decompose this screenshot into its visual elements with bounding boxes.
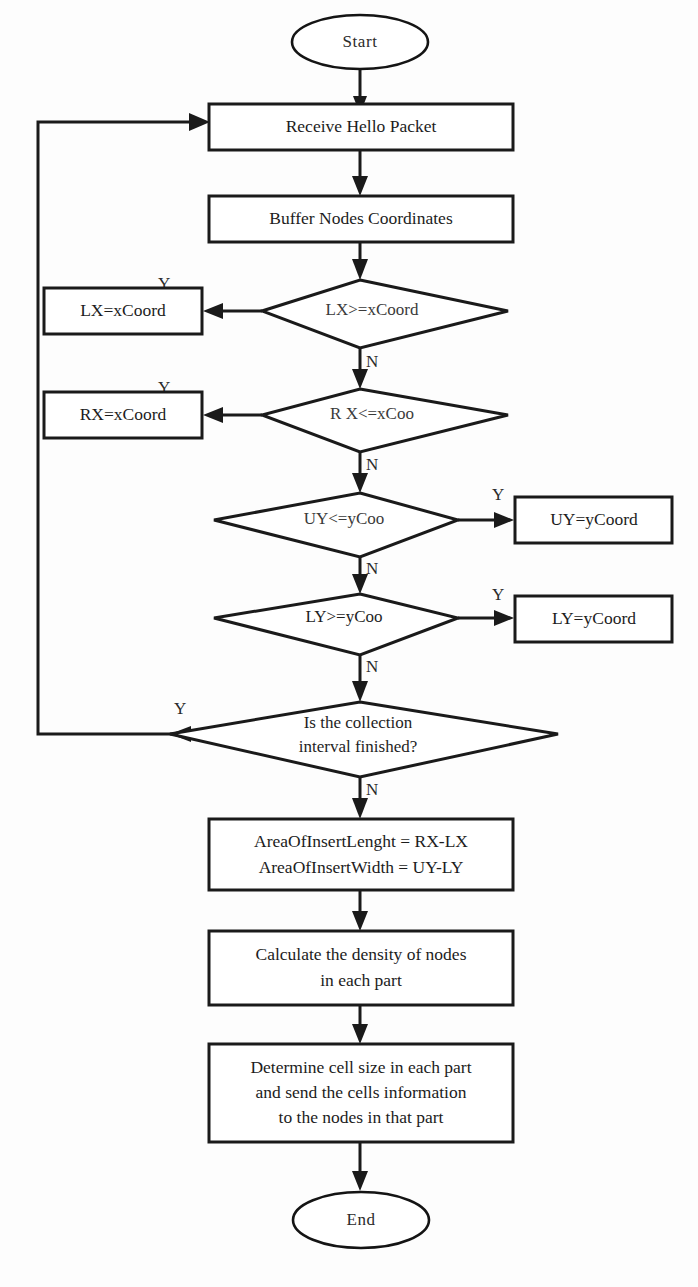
node-assign-rx[interactable]: RX=xCoord <box>44 392 202 438</box>
branch-label-d4-yes: Y <box>492 585 504 604</box>
node-area-label-line1: AreaOfInsertLenght = RX-LX <box>254 831 468 851</box>
node-a3-label: UY=yCoord <box>550 509 638 529</box>
node-decision-rx-le-xcoord[interactable]: R X<=xCoo <box>262 389 508 452</box>
connector-receive-to-buffer <box>352 150 368 196</box>
connector-decision3-yes <box>458 512 514 528</box>
node-cells-label-line3: to the nodes in that part <box>279 1107 444 1127</box>
node-density-label-line2: in each part <box>320 970 402 990</box>
connector-density-to-cells <box>352 1005 368 1044</box>
node-buffer-nodes-coordinates[interactable]: Buffer Nodes Coordinates <box>209 196 513 242</box>
node-end-label: End <box>346 1210 375 1229</box>
connector-decision1-yes <box>203 303 262 319</box>
branch-label-d3-no: N <box>366 559 378 578</box>
node-start-label: Start <box>342 32 377 51</box>
node-receive-label: Receive Hello Packet <box>286 116 437 136</box>
branch-label-d1-no: N <box>366 352 378 371</box>
node-assign-uy[interactable]: UY=yCoord <box>515 497 672 543</box>
connector-cells-to-end <box>352 1142 368 1191</box>
connector-decision4-yes <box>458 610 514 626</box>
node-determine-cell-size[interactable]: Determine cell size in each part and sen… <box>209 1044 513 1142</box>
node-d4-label: LY>=yCoo <box>306 607 383 626</box>
branch-label-d4-no: N <box>366 657 378 676</box>
node-decision-lx-ge-xcoord[interactable]: LX>=xCoord <box>262 280 508 348</box>
node-a2-label: RX=xCoord <box>80 404 167 424</box>
flowchart-svg: Start Receive Hello Packet Buffer Nodes … <box>0 0 698 1287</box>
node-d2-label: R X<=xCoo <box>330 404 414 423</box>
node-density-label-line1: Calculate the density of nodes <box>256 944 467 964</box>
branch-label-d5-no: N <box>366 780 378 799</box>
node-d1-label: LX>=xCoord <box>326 300 419 319</box>
node-d5-label-line1: Is the collection <box>304 713 413 732</box>
node-receive-hello-packet[interactable]: Receive Hello Packet <box>209 104 513 150</box>
node-cells-label-line2: and send the cells information <box>256 1082 467 1102</box>
node-a4-label: LY=yCoord <box>552 608 636 628</box>
node-decision-uy-le-ycoord[interactable]: UY<=yCoo <box>214 493 458 557</box>
node-area-label-line2: AreaOfInsertWidth = UY-LY <box>259 857 464 877</box>
branch-label-d5-yes: Y <box>174 699 186 718</box>
node-end[interactable]: End <box>293 1192 429 1248</box>
node-buffer-label: Buffer Nodes Coordinates <box>269 208 453 228</box>
node-assign-ly[interactable]: LY=yCoord <box>515 596 672 642</box>
node-a1-label: LX=xCoord <box>80 300 166 320</box>
flowchart-canvas: Start Receive Hello Packet Buffer Nodes … <box>0 0 698 1287</box>
connector-area-to-density <box>352 890 368 931</box>
node-cells-label-line1: Determine cell size in each part <box>250 1057 471 1077</box>
node-start[interactable]: Start <box>292 15 428 69</box>
node-decision-ly-ge-ycoord[interactable]: LY>=yCoo <box>214 594 458 655</box>
node-area-of-insert[interactable]: AreaOfInsertLenght = RX-LX AreaOfInsertW… <box>209 819 513 890</box>
node-assign-lx[interactable]: LX=xCoord <box>44 288 202 334</box>
branch-label-d3-yes: Y <box>492 485 504 504</box>
connector-decision2-yes <box>203 407 262 423</box>
branch-label-d2-no: N <box>366 455 378 474</box>
node-calculate-density[interactable]: Calculate the density of nodes in each p… <box>209 931 513 1005</box>
node-d3-label: UY<=yCoo <box>304 509 385 528</box>
node-decision-collection-interval[interactable]: Is the collection interval finished? <box>170 702 558 777</box>
node-d5-label-line2: interval finished? <box>299 737 418 756</box>
